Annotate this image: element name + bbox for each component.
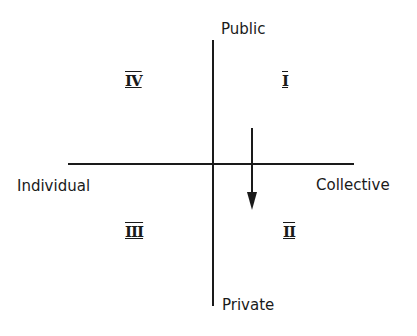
quadrant-label-iv: IV — [125, 72, 142, 90]
down-arrow-icon — [240, 126, 264, 212]
axis-label-private: Private — [222, 296, 274, 314]
axis-label-collective: Collective — [316, 176, 390, 194]
quadrant-label-ii: II — [283, 223, 295, 241]
horizontal-axis — [68, 163, 354, 165]
axis-label-public: Public — [221, 20, 265, 38]
vertical-axis — [212, 40, 214, 306]
quadrant-label-iii: III — [125, 223, 143, 241]
axis-label-individual: Individual — [17, 177, 90, 195]
quadrant-label-i: I — [282, 72, 288, 90]
